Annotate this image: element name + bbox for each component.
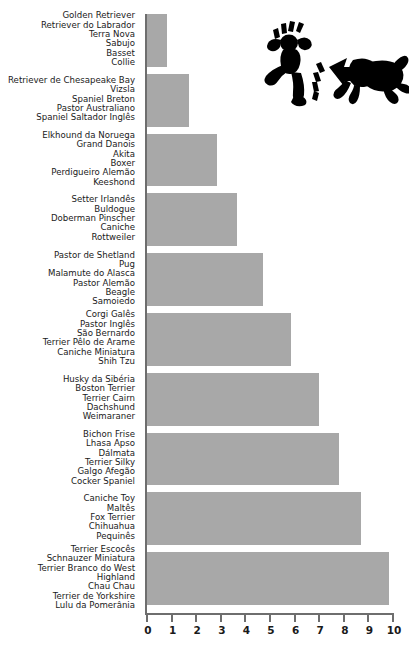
breed-label: Keeshond (0, 178, 135, 187)
dog-breeds-bar-chart: Golden RetrieverRetriever do LabradorTer… (0, 0, 409, 656)
row-label-group: Pastor de ShetlandPugMalamute do AlascaP… (0, 251, 140, 307)
x-tick (220, 613, 222, 622)
x-tick (244, 613, 246, 622)
breed-label: Lulu da Pomerânia (0, 601, 135, 610)
bar (147, 74, 189, 127)
x-tick-label: 8 (335, 624, 355, 636)
x-tick (343, 613, 345, 622)
x-tick-label: 4 (236, 624, 256, 636)
breed-label: Collie (0, 58, 135, 67)
bar (147, 552, 389, 605)
person-fleeing-barking-dog-icon (243, 10, 409, 112)
breed-label: Spaniel Saltador Inglês (0, 113, 135, 122)
bar (147, 313, 291, 366)
x-tick (195, 613, 197, 622)
bar (147, 433, 339, 486)
row-label-group: Husky da SibériaBoston TerrierTerrier Ca… (0, 375, 140, 422)
x-tick (392, 613, 394, 622)
breed-label: Shih Tzu (0, 357, 135, 366)
row-label-group: Terrier EscocêsSchnauzer MiniaturaTerrie… (0, 545, 140, 610)
x-tick (171, 613, 173, 622)
x-tick-label: 1 (163, 624, 183, 636)
x-tick (294, 613, 296, 622)
bar (147, 193, 237, 246)
breed-label: Rottweiler (0, 233, 135, 242)
bar (147, 492, 361, 545)
x-tick-label: 3 (212, 624, 232, 636)
breed-label: Pequinês (0, 532, 135, 541)
bar (147, 373, 319, 426)
x-tick-label: 10 (384, 624, 404, 636)
row-label-group: Golden RetrieverRetriever do LabradorTer… (0, 11, 140, 67)
row-label-group: Elkhound da NoruegaGrand DanoisAkitaBoxe… (0, 131, 140, 187)
x-tick-label: 2 (187, 624, 207, 636)
row-label-group: Setter IrlandêsBuldogueDoberman Pinscher… (0, 195, 140, 242)
row-label-group: Caniche ToyMaltêsFox TerrierChihuahuaPeq… (0, 494, 140, 541)
breed-label: Samoiedo (0, 297, 135, 306)
bar (147, 14, 167, 67)
bar (147, 253, 263, 306)
breed-label: Cocker Spaniel (0, 477, 135, 486)
x-tick (367, 613, 369, 622)
row-label-group: Corgi GalêsPastor InglêsSão BernardoTerr… (0, 310, 140, 366)
x-tick-label: 6 (286, 624, 306, 636)
breed-label: Weimaraner (0, 412, 135, 421)
row-label-group: Retriever de Chesapeake BayVizslaSpaniel… (0, 76, 140, 123)
x-tick-label: 7 (310, 624, 330, 636)
x-tick (146, 613, 148, 622)
x-tick-label: 0 (138, 624, 158, 636)
x-tick-label: 9 (359, 624, 379, 636)
x-tick-label: 5 (261, 624, 281, 636)
bar (147, 134, 217, 187)
breed-label: Pastor de Shetland (0, 251, 135, 260)
x-tick (269, 613, 271, 622)
x-tick (318, 613, 320, 622)
row-label-group: Bichon FriseLhasa ApsoDálmataTerrier Sil… (0, 430, 140, 486)
